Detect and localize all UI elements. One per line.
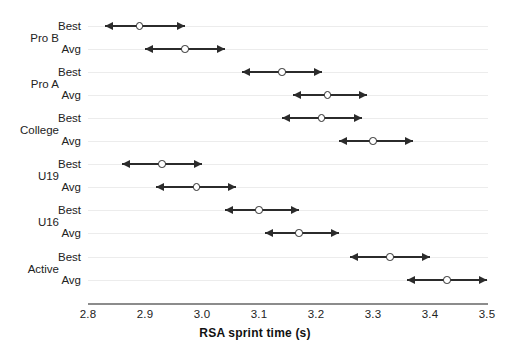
arrow-right-icon — [479, 276, 487, 284]
x-tick-label: 3.5 — [467, 308, 507, 320]
data-point-marker — [443, 276, 451, 284]
interval-mark — [350, 250, 430, 264]
interval-mark — [293, 88, 367, 102]
data-point-marker — [318, 114, 326, 122]
x-tick-label: 3.1 — [239, 308, 279, 320]
arrow-right-icon — [405, 137, 413, 145]
gridline — [88, 187, 488, 188]
group-label: Pro A — [2, 78, 62, 90]
arrow-left-icon — [265, 229, 273, 237]
arrow-right-icon — [217, 45, 225, 53]
group-label: Pro B — [2, 32, 62, 44]
data-point-marker — [278, 68, 286, 76]
interval-mark — [145, 42, 225, 56]
gridline — [88, 95, 488, 96]
interval-mark — [105, 19, 185, 33]
interval-mark — [225, 203, 299, 217]
arrow-right-icon — [194, 160, 202, 168]
group-label: College — [2, 124, 62, 136]
interval-mark — [407, 273, 487, 287]
group-label-column: Pro BPro ACollegeU19U16Active — [0, 0, 62, 300]
arrow-left-icon — [122, 160, 130, 168]
group-label: Active — [2, 263, 62, 275]
data-point-marker — [255, 206, 263, 214]
arrow-left-icon — [145, 45, 153, 53]
interval-line — [105, 25, 185, 27]
rsa-sprint-time-chart: 2.82.93.03.13.23.33.43.5 RSA sprint time… — [0, 0, 510, 355]
interval-mark — [282, 111, 362, 125]
data-point-marker — [369, 137, 377, 145]
data-point-marker — [158, 160, 166, 168]
interval-mark — [122, 157, 202, 171]
data-point-marker — [136, 22, 144, 30]
group-label: U16 — [2, 216, 62, 228]
arrow-left-icon — [293, 91, 301, 99]
x-tick-label: 2.8 — [68, 308, 108, 320]
x-tick-label: 3.4 — [410, 308, 450, 320]
arrow-left-icon — [282, 114, 290, 122]
arrow-right-icon — [354, 114, 362, 122]
arrow-left-icon — [350, 253, 358, 261]
arrow-left-icon — [242, 68, 250, 76]
arrow-right-icon — [228, 183, 236, 191]
arrow-left-icon — [407, 276, 415, 284]
x-tick-label: 3.0 — [182, 308, 222, 320]
interval-mark — [242, 65, 322, 79]
arrow-right-icon — [359, 91, 367, 99]
x-axis-title: RSA sprint time (s) — [0, 326, 510, 340]
arrow-left-icon — [156, 183, 164, 191]
gridline — [88, 141, 488, 142]
arrow-right-icon — [177, 22, 185, 30]
arrow-right-icon — [331, 229, 339, 237]
arrow-left-icon — [105, 22, 113, 30]
arrow-right-icon — [422, 253, 430, 261]
x-tick-label: 3.2 — [296, 308, 336, 320]
arrow-left-icon — [225, 206, 233, 214]
x-axis-line — [88, 303, 488, 305]
arrow-left-icon — [339, 137, 347, 145]
interval-mark — [265, 226, 339, 240]
data-point-marker — [295, 229, 303, 237]
group-label: U19 — [2, 170, 62, 182]
x-tick-label: 2.9 — [125, 308, 165, 320]
data-point-marker — [386, 253, 394, 261]
arrow-right-icon — [291, 206, 299, 214]
interval-mark — [156, 180, 236, 194]
x-tick-label: 3.3 — [353, 308, 393, 320]
data-point-marker — [193, 183, 201, 191]
arrow-right-icon — [314, 68, 322, 76]
data-point-marker — [324, 91, 332, 99]
interval-mark — [339, 134, 413, 148]
data-point-marker — [181, 45, 189, 53]
